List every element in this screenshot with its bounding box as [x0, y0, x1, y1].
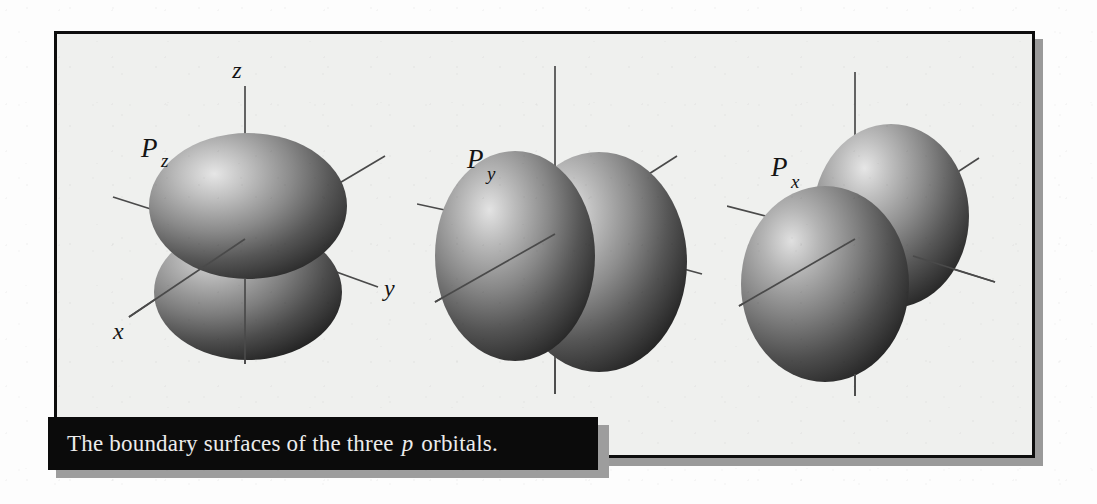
orbital-diagram-py: P y [417, 34, 717, 455]
caption-text: The boundary surfaces of the three p orb… [48, 431, 498, 457]
orbital-diagram-pz: z y x P z [85, 34, 405, 455]
axis-label-z: z [231, 57, 242, 83]
caption-text-after: orbitals. [421, 431, 498, 456]
orbital-lobe-upper [149, 133, 347, 279]
orbital-label-pz-sub: z [160, 150, 169, 171]
axis-label-x: x [112, 318, 124, 344]
orbital-label-pz-main: P [140, 133, 158, 163]
orbital-py-svg: P y [417, 34, 717, 455]
orbital-label-py-main: P [466, 144, 484, 174]
axis-label-y: y [382, 275, 395, 301]
orbital-lobe-front [741, 186, 909, 382]
orbital-px-svg: P x [727, 34, 1032, 455]
orbital-pz-svg: z y x P z [85, 34, 405, 455]
orbital-label-px-main: P [770, 152, 788, 182]
orbital-label-px-sub: x [790, 171, 800, 192]
orbital-label-py-sub: y [485, 163, 496, 184]
caption-emphasis-p: p [400, 431, 416, 456]
figure-canvas: z y x P z [57, 34, 1032, 455]
figure-panel: z y x P z [54, 31, 1035, 458]
caption-bar: The boundary surfaces of the three p orb… [48, 417, 598, 470]
caption-text-before: The boundary surfaces of the three [67, 431, 394, 456]
orbital-diagram-px: P x [727, 34, 1032, 455]
